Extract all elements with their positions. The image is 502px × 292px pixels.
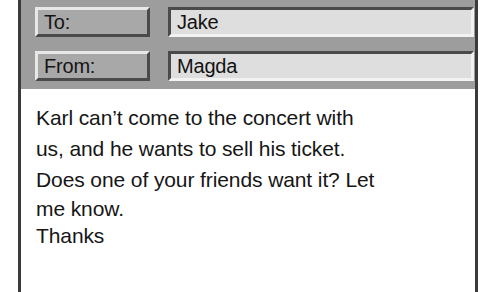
body-line: us, and he wants to sell his ticket. [36, 133, 456, 164]
field-row-to: To: Jake [21, 7, 475, 37]
from-label-chip: From: [35, 51, 150, 81]
message-body-panel: Karl can’t come to the concert with us, … [18, 89, 478, 292]
message-body-text: Karl can’t come to the concert with us, … [36, 102, 456, 249]
body-line: Karl can’t come to the concert with [36, 102, 456, 133]
from-value-field[interactable]: Magda [168, 51, 474, 81]
from-value-text: Magda [171, 56, 237, 76]
to-label-text: To: [38, 12, 70, 32]
message-header-panel: To: Jake From: Magda [18, 0, 478, 89]
body-line: Does one of your friends want it? Let [36, 164, 456, 195]
to-label-chip: To: [35, 7, 150, 37]
field-row-from: From: Magda [21, 51, 475, 81]
to-value-text: Jake [171, 12, 218, 32]
body-line: me know. [36, 195, 456, 222]
body-line: Thanks [36, 222, 456, 249]
to-value-field[interactable]: Jake [168, 7, 474, 37]
from-label-text: From: [38, 56, 95, 76]
email-message-card: To: Jake From: Magda Karl can’t come to … [0, 0, 502, 292]
